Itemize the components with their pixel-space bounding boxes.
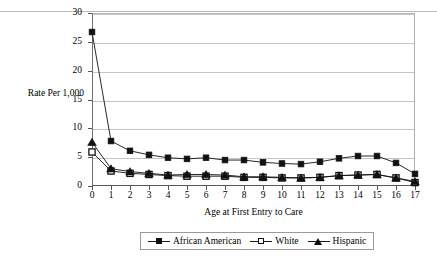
x-tick-label: 7: [215, 190, 235, 200]
x-tick-mark: [263, 186, 264, 190]
filled-triangle-marker-icon: [308, 236, 330, 246]
x-tick-mark: [301, 186, 302, 190]
x-tick-label: 15: [367, 190, 387, 200]
x-tick-mark: [206, 186, 207, 190]
x-tick-mark: [358, 186, 359, 190]
y-tick-mark: [88, 42, 92, 43]
y-tick-mark: [88, 100, 92, 101]
plot-area: [92, 13, 415, 186]
gridline: [93, 101, 414, 102]
x-tick-mark: [187, 186, 188, 190]
x-tick-label: 0: [82, 190, 102, 200]
gridline: [93, 14, 414, 15]
x-tick-label: 1: [101, 190, 121, 200]
y-tick-label: 0: [56, 181, 82, 191]
x-tick-mark: [282, 186, 283, 190]
x-tick-mark: [339, 186, 340, 190]
x-tick-mark: [149, 186, 150, 190]
y-tick-mark: [88, 128, 92, 129]
gridline: [93, 158, 414, 159]
x-tick-label: 16: [386, 190, 406, 200]
x-tick-mark: [244, 186, 245, 190]
y-tick-label: 10: [56, 123, 82, 133]
x-tick-label: 5: [177, 190, 197, 200]
x-tick-label: 10: [272, 190, 292, 200]
x-tick-mark: [130, 186, 131, 190]
y-tick-label: 15: [56, 95, 82, 105]
chart-figure: Rate Per 1,000 051015202530 012345678910…: [0, 0, 437, 262]
y-tick-label: 30: [56, 8, 82, 18]
x-tick-mark: [415, 186, 416, 190]
open-square-marker-icon: [250, 236, 272, 246]
y-tick-label: 20: [56, 66, 82, 76]
x-axis-title: Age at First Entry to Care: [92, 207, 415, 217]
y-tick-label: 5: [56, 152, 82, 162]
x-tick-mark: [396, 186, 397, 190]
y-tick-mark: [88, 157, 92, 158]
legend-label: African American: [173, 236, 241, 246]
gridline: [93, 43, 414, 44]
x-tick-mark: [225, 186, 226, 190]
legend-label: White: [275, 236, 298, 246]
x-tick-mark: [168, 186, 169, 190]
x-tick-label: 2: [120, 190, 140, 200]
filled-square-marker-icon: [148, 236, 170, 246]
legend-item-white[interactable]: White: [250, 236, 298, 246]
x-tick-label: 17: [405, 190, 425, 200]
gridline: [93, 72, 414, 73]
chart-legend: African American White Hispanic: [140, 232, 374, 250]
x-tick-label: 14: [348, 190, 368, 200]
gridline: [93, 129, 414, 130]
legend-item-african-american[interactable]: African American: [148, 236, 241, 246]
x-tick-label: 12: [310, 190, 330, 200]
x-tick-label: 13: [329, 190, 349, 200]
x-tick-label: 4: [158, 190, 178, 200]
x-tick-mark: [92, 186, 93, 190]
legend-item-hispanic[interactable]: Hispanic: [308, 236, 367, 246]
y-tick-mark: [88, 13, 92, 14]
x-tick-label: 6: [196, 190, 216, 200]
x-tick-mark: [111, 186, 112, 190]
x-tick-label: 11: [291, 190, 311, 200]
x-tick-label: 8: [234, 190, 254, 200]
legend-label: Hispanic: [333, 236, 367, 246]
x-tick-mark: [320, 186, 321, 190]
x-tick-label: 9: [253, 190, 273, 200]
y-tick-label: 25: [56, 37, 82, 47]
x-tick-mark: [377, 186, 378, 190]
x-tick-label: 3: [139, 190, 159, 200]
y-tick-mark: [88, 71, 92, 72]
